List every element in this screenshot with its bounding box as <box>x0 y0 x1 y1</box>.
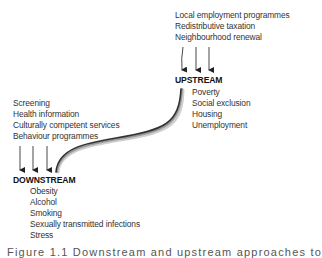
downstream-intervention: Culturally competent services <box>13 120 119 131</box>
downstream-intervention: Health information <box>13 109 79 120</box>
upstream-factor: Poverty <box>192 87 220 98</box>
downstream-factor: Sexually transmitted infections <box>30 219 140 230</box>
arrow-down-icon <box>182 47 183 70</box>
upstream-factor: Social exclusion <box>192 98 250 109</box>
downstream-arrows <box>20 146 47 170</box>
upstream-intervention: Local employment programmes <box>175 10 290 21</box>
downstream-factor: Obesity <box>30 186 58 197</box>
upstream-arrows <box>182 47 209 70</box>
upstream-factor: Housing <box>192 109 222 120</box>
figure-caption: Figure 1.1 Downstream and upstream appro… <box>7 246 322 258</box>
upstream-factor: Unemployment <box>192 120 247 131</box>
downstream-intervention: Behaviour programmes <box>13 131 98 142</box>
downstream-factor: Smoking <box>30 208 62 219</box>
upstream-heading: UPSTREAM <box>175 75 222 86</box>
downstream-factor: Alcohol <box>30 197 57 208</box>
downstream-intervention: Screening <box>13 98 50 109</box>
upstream-intervention: Redistributive taxation <box>175 21 255 32</box>
downstream-factor: Stress <box>30 230 53 241</box>
upstream-intervention: Neighbourhood renewal <box>175 32 262 43</box>
downstream-heading: DOWNSTREAM <box>13 175 76 186</box>
